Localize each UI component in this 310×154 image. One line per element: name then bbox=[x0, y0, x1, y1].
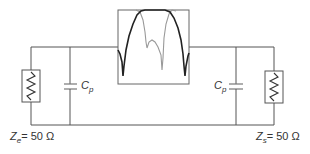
left-capacitor bbox=[64, 47, 77, 125]
source-impedance-label: Ze= 50 Ω bbox=[10, 130, 54, 145]
source-impedance-resistor bbox=[22, 70, 40, 102]
right-capacitor-label: Cp bbox=[214, 79, 226, 94]
load-impedance-label: Zs= 50 Ω bbox=[256, 130, 300, 145]
load-impedance-resistor bbox=[265, 71, 283, 103]
inset-frame bbox=[118, 10, 189, 84]
right-capacitor bbox=[229, 47, 243, 125]
left-capacitor-label: Cp bbox=[81, 79, 93, 94]
filter-response-inset bbox=[118, 10, 189, 84]
